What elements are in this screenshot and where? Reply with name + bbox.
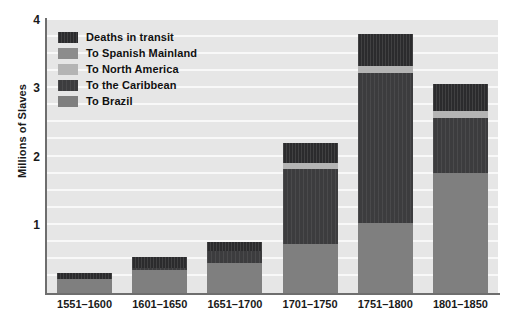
chart-figure: Millions of Slaves 1234 1551–16001601–16… [0,0,516,322]
y-tick-label: 2 [18,151,40,163]
legend-item: To Brazil [58,93,197,109]
x-tick-label: 1751–1800 [348,298,423,310]
bar-segment-deaths-in-transit [207,242,262,251]
bar-1801–1850 [433,83,488,293]
legend-swatch-spanish [58,48,78,59]
legend-item: To the Caribbean [58,77,197,93]
bar-segment-to-the-caribbean [132,268,187,271]
legend-item: Deaths in transit [58,29,197,45]
bar-segment-to-brazil [207,263,262,293]
legend-item: To North America [58,61,197,77]
x-tick-label: 1801–1850 [423,298,498,310]
legend-swatch-deaths [58,32,78,43]
bar-1651–1700 [207,242,262,293]
legend-label: To North America [86,63,179,75]
bar-segment-deaths-in-transit [358,34,413,66]
legend-label: To Brazil [86,95,133,107]
bar-segment-to-brazil [283,244,338,293]
legend-swatch-caribbean [58,80,78,91]
bar-segment-to-brazil [132,270,187,293]
bar-segment-to-the-caribbean [207,251,262,263]
bar-1551–1600 [57,273,112,293]
y-tick-label: 1 [18,219,40,231]
x-tick-label: 1651–1700 [197,298,272,310]
bar-segment-deaths-in-transit [283,143,338,163]
legend-item: To Spanish Mainland [58,45,197,61]
chart-legend: Deaths in transitTo Spanish MainlandTo N… [58,29,197,109]
x-tick-label: 1601–1650 [122,298,197,310]
bar-segment-to-the-caribbean [283,169,338,243]
bar-segment-to-north-america [358,66,413,73]
bar-segment-deaths-in-transit [132,257,187,268]
bar-segment-deaths-in-transit [433,84,488,112]
bar-segment-to-brazil [358,223,413,293]
bar-segment-to-north-america [433,111,488,118]
legend-label: To the Caribbean [86,79,177,91]
x-tick-label: 1551–1600 [47,298,122,310]
bar-1601–1650 [132,257,187,293]
y-tick-label: 3 [18,82,40,94]
bar-segment-to-the-caribbean [358,73,413,223]
x-axis-tick-labels: 1551–16001601–16501651–17001701–17501751… [47,298,498,318]
bar-1751–1800 [358,34,413,293]
legend-label: Deaths in transit [86,31,174,43]
y-tick-label: 4 [18,14,40,26]
bar-segment-to-brazil [433,173,488,293]
bar-segment-to-brazil [57,279,112,293]
x-tick-label: 1701–1750 [273,298,348,310]
legend-swatch-north-america [58,64,78,75]
bar-segment-deaths-in-transit [57,273,112,279]
x-axis-line [45,293,500,295]
bar-segment-to-the-caribbean [433,118,488,173]
bar-1701–1750 [283,143,338,293]
legend-label: To Spanish Mainland [86,47,197,59]
y-axis-tick-labels: 1234 [18,0,40,322]
legend-swatch-brazil [58,96,78,107]
bar-segment-to-north-america [283,163,338,170]
